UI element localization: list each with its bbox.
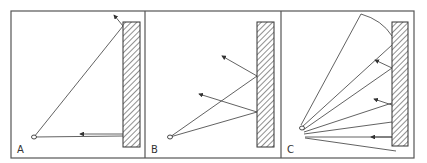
eye-icon (168, 135, 173, 139)
reflection-arrow (114, 15, 123, 26)
field-arc (361, 14, 392, 36)
sight-ray (170, 76, 257, 137)
reflection-diagram: ABC (0, 0, 427, 163)
eye-icon (300, 126, 305, 130)
reflection-arrow (375, 60, 392, 68)
sight-ray (301, 14, 361, 125)
hatched-wall (392, 22, 408, 146)
sight-ray (302, 45, 392, 127)
sight-ray (34, 136, 123, 137)
panel-c: C (287, 14, 408, 155)
panel-a: A (17, 15, 140, 155)
reflection-arrow (222, 56, 257, 76)
panel-label: C (287, 144, 294, 155)
sight-ray (34, 26, 123, 137)
sight-ray (305, 138, 396, 151)
hatched-wall (123, 22, 140, 147)
sight-ray (170, 112, 257, 137)
sight-ray (303, 68, 392, 130)
panel-b: B (151, 22, 274, 155)
reflection-arrow (374, 99, 392, 105)
panel-label: B (151, 144, 158, 155)
eye-icon (32, 135, 37, 139)
figure-frame (11, 11, 414, 158)
panel-label: A (17, 144, 24, 155)
hatched-wall (257, 22, 274, 147)
